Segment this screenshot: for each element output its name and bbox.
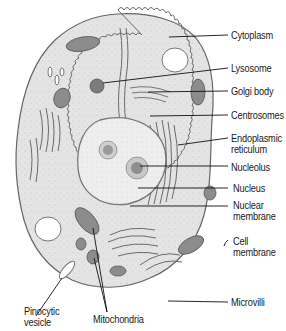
label-lysosome: Lysosome: [231, 63, 271, 74]
cell-diagram: Cytoplasm Lysosome Golgi body Centrosome…: [0, 0, 286, 331]
label-mitochondria: Mitochondria: [93, 314, 144, 325]
label-pinocytic-vesicle: Pinocytic vesicle: [24, 306, 59, 328]
label-centrosomes: Centrosomes: [231, 110, 284, 121]
label-endoplasmic-reticulum: Endoplasmic reticulum: [231, 133, 282, 155]
label-nucleus: Nucleus: [233, 183, 265, 194]
label-cytoplasm: Cytoplasm: [231, 30, 273, 41]
label-golgi-body: Golgi body: [231, 86, 273, 97]
nucleus-shape: [78, 118, 166, 205]
label-nuclear-membrane: Nuclear membrane: [233, 200, 276, 222]
label-microvilli: Microvilli: [231, 297, 265, 308]
label-cell-membrane: Cell membrane: [233, 236, 276, 258]
label-nucleolus: Nucleolus: [231, 162, 270, 173]
lysosome-shape: [90, 79, 104, 93]
